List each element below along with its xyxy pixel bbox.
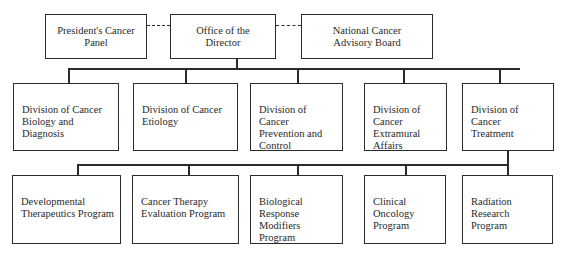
org-chart: President's Cancer Panel Office of the D…: [0, 0, 566, 255]
office-of-director-box: Office of the Director: [170, 14, 276, 59]
connector-div-4: [403, 68, 405, 83]
box-label: Division of Cancer Treatment: [471, 104, 549, 140]
label-line: Director: [171, 37, 275, 49]
label-line: Radiation Research: [471, 196, 548, 220]
label-line: Biology and: [22, 116, 114, 128]
label-line: Program: [373, 220, 441, 232]
label-line: Office of the: [171, 25, 275, 37]
label-line: President's Cancer: [46, 25, 146, 37]
label-line: Response: [259, 208, 338, 220]
division-biology-diagnosis-box: Division of Cancer Biology and Diagnosis: [13, 83, 119, 151]
connector-prog-3: [297, 164, 299, 175]
label-line: Advisory Board: [302, 37, 432, 49]
connector-div-5: [499, 68, 501, 83]
program-biological-response-modifiers-box: Biological Response Modifiers Program: [250, 175, 343, 244]
connector-div-1: [68, 68, 70, 83]
box-label: Biological Response Modifiers Program: [259, 196, 338, 244]
label-line: Affairs: [373, 140, 442, 152]
connector-prog-1: [77, 164, 79, 175]
label-line: Treatment: [471, 128, 549, 140]
national-cancer-advisory-board-box: National Cancer Advisory Board: [301, 14, 433, 59]
box-label: Division of Cancer Prevention and Contro…: [259, 104, 338, 152]
division-etiology-box: Division of Cancer Etiology: [133, 83, 238, 151]
program-developmental-therapeutics-box: Developmental Therapeutics Program: [12, 175, 121, 244]
connector-director-stem: [236, 58, 238, 68]
label-line: Cancer Therapy: [141, 196, 234, 208]
connector-div-2: [185, 68, 187, 83]
label-line: Clinical Oncology: [373, 196, 441, 220]
program-cancer-therapy-evaluation-box: Cancer Therapy Evaluation Program: [132, 175, 239, 244]
box-label: Cancer Therapy Evaluation Program: [141, 196, 234, 220]
box-label: Radiation Research Program: [471, 196, 548, 232]
label-line: Modifiers Program: [259, 220, 338, 244]
label-line: Program: [471, 220, 548, 232]
label-line: Prevention and: [259, 128, 338, 140]
box-label: Clinical Oncology Program: [373, 196, 441, 232]
label-line: Control: [259, 140, 338, 152]
dashed-link-panel-director: [147, 25, 170, 26]
division-extramural-affairs-box: Division of Cancer Extramural Affairs: [364, 83, 447, 151]
label-line: Evaluation Program: [141, 208, 234, 220]
label-line: Diagnosis: [22, 128, 114, 140]
program-clinical-oncology-box: Clinical Oncology Program: [364, 175, 446, 244]
label-line: Extramural: [373, 128, 442, 140]
label-line: Division of Cancer: [471, 104, 549, 128]
box-label: Division of Cancer Biology and Diagnosis: [22, 104, 114, 140]
label-line: Division of Cancer: [22, 104, 114, 116]
label-line: National Cancer: [302, 25, 432, 37]
box-label: Division of Cancer Etiology: [142, 104, 233, 128]
division-prevention-control-box: Division of Cancer Prevention and Contro…: [250, 83, 343, 151]
connector-treatment-stem: [507, 150, 509, 164]
connector-prog-4: [405, 164, 407, 175]
label-line: Division of Cancer: [142, 104, 233, 116]
connector-prog-5: [507, 164, 509, 175]
box-label: Division of Cancer Extramural Affairs: [373, 104, 442, 152]
connector-programs-bus: [77, 164, 509, 166]
label-line: Biological: [259, 196, 338, 208]
program-radiation-research-box: Radiation Research Program: [462, 175, 553, 244]
label-line: Developmental: [21, 196, 116, 208]
box-label: President's Cancer Panel: [46, 25, 146, 49]
dashed-link-director-board: [276, 25, 301, 26]
box-label: Developmental Therapeutics Program: [21, 196, 116, 220]
label-line: Division of Cancer: [373, 104, 442, 128]
label-line: Division of Cancer: [259, 104, 338, 128]
box-label: National Cancer Advisory Board: [302, 25, 432, 49]
label-line: Therapeutics Program: [21, 208, 116, 220]
connector-div-3: [297, 68, 299, 83]
presidents-cancer-panel-box: President's Cancer Panel: [45, 14, 147, 59]
connector-divisions-bus: [68, 68, 520, 70]
label-line: Panel: [46, 37, 146, 49]
connector-prog-2: [188, 164, 190, 175]
division-treatment-box: Division of Cancer Treatment: [462, 83, 554, 151]
box-label: Office of the Director: [171, 25, 275, 49]
label-line: Etiology: [142, 116, 233, 128]
